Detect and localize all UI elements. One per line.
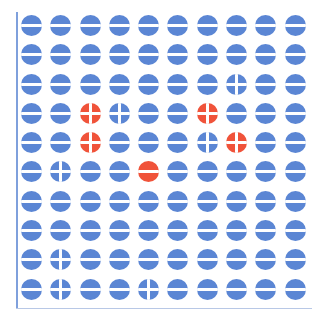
blue-halved-circle-icon <box>285 132 306 153</box>
blue-halved-circle-icon <box>255 279 276 300</box>
blue-halved-circle-icon <box>285 279 306 300</box>
blue-halved-circle-icon <box>138 191 159 212</box>
blue-halved-circle-icon <box>109 220 130 241</box>
blue-halved-circle-icon <box>138 220 159 241</box>
blue-halved-circle-icon <box>80 191 101 212</box>
red-halved-circle-icon <box>138 161 159 182</box>
blue-halved-circle-icon <box>109 44 130 65</box>
blue-halved-circle-icon <box>50 74 71 95</box>
blue-halved-circle-icon <box>197 220 218 241</box>
blue-quartered-circle-icon <box>50 161 71 182</box>
red-quartered-circle-icon <box>80 103 101 124</box>
blue-halved-circle-icon <box>285 15 306 36</box>
blue-halved-circle-icon <box>197 15 218 36</box>
blue-halved-circle-icon <box>109 191 130 212</box>
blue-halved-circle-icon <box>255 103 276 124</box>
blue-halved-circle-icon <box>21 103 42 124</box>
blue-halved-circle-icon <box>197 279 218 300</box>
blue-halved-circle-icon <box>21 220 42 241</box>
blue-halved-circle-icon <box>138 44 159 65</box>
blue-halved-circle-icon <box>109 249 130 270</box>
bottom-axis-line <box>16 308 312 309</box>
blue-halved-circle-icon <box>50 44 71 65</box>
blue-halved-circle-icon <box>255 220 276 241</box>
blue-halved-circle-icon <box>109 15 130 36</box>
blue-halved-circle-icon <box>21 44 42 65</box>
red-quartered-circle-icon <box>197 103 218 124</box>
blue-quartered-circle-icon <box>138 279 159 300</box>
blue-halved-circle-icon <box>80 220 101 241</box>
blue-halved-circle-icon <box>80 15 101 36</box>
blue-halved-circle-icon <box>138 103 159 124</box>
blue-quartered-circle-icon <box>50 279 71 300</box>
blue-halved-circle-icon <box>226 220 247 241</box>
blue-halved-circle-icon <box>50 132 71 153</box>
left-axis-line <box>16 12 18 309</box>
blue-halved-circle-icon <box>255 74 276 95</box>
blue-halved-circle-icon <box>197 161 218 182</box>
blue-quartered-circle-icon <box>109 103 130 124</box>
dot-grid-figure <box>0 0 326 322</box>
blue-halved-circle-icon <box>138 132 159 153</box>
blue-halved-circle-icon <box>255 161 276 182</box>
blue-halved-circle-icon <box>226 249 247 270</box>
blue-halved-circle-icon <box>167 74 188 95</box>
blue-quartered-circle-icon <box>50 249 71 270</box>
blue-halved-circle-icon <box>285 74 306 95</box>
blue-halved-circle-icon <box>167 279 188 300</box>
blue-halved-circle-icon <box>80 44 101 65</box>
blue-halved-circle-icon <box>226 44 247 65</box>
blue-halved-circle-icon <box>167 220 188 241</box>
blue-halved-circle-icon <box>21 74 42 95</box>
blue-halved-circle-icon <box>197 44 218 65</box>
blue-halved-circle-icon <box>167 161 188 182</box>
blue-halved-circle-icon <box>50 191 71 212</box>
blue-halved-circle-icon <box>226 103 247 124</box>
blue-halved-circle-icon <box>21 279 42 300</box>
dot-grid <box>21 15 306 300</box>
blue-halved-circle-icon <box>285 191 306 212</box>
blue-halved-circle-icon <box>21 191 42 212</box>
blue-halved-circle-icon <box>197 74 218 95</box>
blue-halved-circle-icon <box>226 191 247 212</box>
blue-halved-circle-icon <box>285 44 306 65</box>
blue-halved-circle-icon <box>21 15 42 36</box>
blue-halved-circle-icon <box>226 15 247 36</box>
blue-halved-circle-icon <box>167 132 188 153</box>
blue-halved-circle-icon <box>21 161 42 182</box>
blue-halved-circle-icon <box>255 15 276 36</box>
blue-halved-circle-icon <box>21 249 42 270</box>
blue-halved-circle-icon <box>285 249 306 270</box>
blue-halved-circle-icon <box>285 103 306 124</box>
blue-halved-circle-icon <box>167 249 188 270</box>
blue-halved-circle-icon <box>167 191 188 212</box>
blue-halved-circle-icon <box>80 161 101 182</box>
blue-halved-circle-icon <box>255 132 276 153</box>
blue-halved-circle-icon <box>80 279 101 300</box>
blue-halved-circle-icon <box>226 279 247 300</box>
blue-halved-circle-icon <box>255 44 276 65</box>
blue-halved-circle-icon <box>197 249 218 270</box>
blue-halved-circle-icon <box>109 161 130 182</box>
blue-halved-circle-icon <box>167 44 188 65</box>
blue-halved-circle-icon <box>226 161 247 182</box>
blue-halved-circle-icon <box>50 220 71 241</box>
blue-halved-circle-icon <box>109 74 130 95</box>
blue-halved-circle-icon <box>21 132 42 153</box>
blue-halved-circle-icon <box>80 74 101 95</box>
blue-halved-circle-icon <box>167 103 188 124</box>
blue-halved-circle-icon <box>138 15 159 36</box>
blue-halved-circle-icon <box>285 220 306 241</box>
blue-halved-circle-icon <box>255 249 276 270</box>
blue-halved-circle-icon <box>138 249 159 270</box>
blue-halved-circle-icon <box>138 74 159 95</box>
blue-halved-circle-icon <box>50 103 71 124</box>
red-quartered-circle-icon <box>80 132 101 153</box>
blue-quartered-circle-icon <box>197 132 218 153</box>
blue-quartered-circle-icon <box>226 74 247 95</box>
blue-halved-circle-icon <box>80 249 101 270</box>
blue-halved-circle-icon <box>197 191 218 212</box>
red-quartered-circle-icon <box>226 132 247 153</box>
blue-halved-circle-icon <box>167 15 188 36</box>
blue-halved-circle-icon <box>285 161 306 182</box>
